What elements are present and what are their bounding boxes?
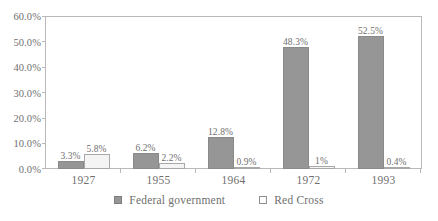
bar-federal-1993[interactable]: 52.5% (358, 36, 384, 169)
x-axis-label-1972: 1972 (271, 174, 346, 192)
y-tick-label-40: 40.0% (13, 61, 41, 72)
bar-group-1993: 52.5% 0.4% (346, 17, 421, 169)
x-axis-label-1955: 1955 (121, 174, 196, 192)
x-axis-label-1927: 1927 (46, 174, 121, 192)
x-axis-labels: 1927 1955 1964 1972 1993 (46, 174, 421, 192)
bar-label-federal-1927: 3.3% (60, 151, 80, 161)
bar-label-redcross-1964: 0.9% (236, 157, 256, 167)
bar-wrap-redcross-1955: 2.2% (159, 17, 185, 169)
bar-wrap-federal-1964: 12.8% (208, 17, 234, 169)
legend-entry-red-cross[interactable]: Red Cross (259, 194, 323, 206)
bar-wrap-redcross-1927: 5.8% (84, 17, 110, 169)
chart-legend: Federal government Red Cross (0, 194, 438, 206)
bar-wrap-redcross-1972: 1% (309, 17, 335, 169)
bar-group-1955: 6.2% 2.2% (121, 17, 196, 169)
bar-label-federal-1993: 52.5% (358, 26, 383, 36)
plot-area: 3.3% 5.8% 6.2% 2.2% (46, 17, 421, 169)
legend-entry-federal-government[interactable]: Federal government (114, 194, 225, 206)
bar-federal-1927[interactable]: 3.3% (58, 161, 84, 169)
bar-federal-1955[interactable]: 6.2% (133, 153, 159, 169)
bar-label-federal-1972: 48.3% (283, 37, 308, 47)
legend-swatch-icon-red-cross (259, 196, 267, 204)
bar-label-redcross-1927: 5.8% (86, 144, 106, 154)
bar-wrap-federal-1955: 6.2% (133, 17, 159, 169)
bar-wrap-federal-1927: 3.3% (58, 17, 84, 169)
bar-group-1964: 12.8% 0.9% (196, 17, 271, 169)
bar-wrap-redcross-1964: 0.9% (234, 17, 260, 169)
y-tick-label-10: 10.0% (13, 138, 41, 149)
x-axis-label-1993: 1993 (346, 174, 421, 192)
x-axis-label-1964: 1964 (196, 174, 271, 192)
bar-wrap-federal-1972: 48.3% (283, 17, 309, 169)
bar-label-federal-1955: 6.2% (135, 143, 155, 153)
x-tick-mark-5 (420, 169, 421, 173)
y-tick-label-30: 30.0% (13, 87, 41, 98)
bar-label-redcross-1993: 0.4% (386, 157, 406, 167)
legend-swatch-icon-federal-government (114, 196, 122, 204)
bar-label-redcross-1972: 1% (315, 156, 328, 166)
legend-label-federal-government: Federal government (129, 194, 225, 206)
y-tick-label-60: 60.0% (13, 11, 41, 22)
bar-wrap-federal-1993: 52.5% (358, 17, 384, 169)
y-tick-label-0: 0.0% (19, 164, 41, 175)
y-tick-label-50: 50.0% (13, 36, 41, 47)
bar-label-redcross-1955: 2.2% (161, 153, 181, 163)
bar-federal-1964[interactable]: 12.8% (208, 137, 234, 169)
bar-federal-1972[interactable]: 48.3% (283, 47, 309, 169)
bar-group-1927: 3.3% 5.8% (46, 17, 121, 169)
bar-redcross-1927[interactable]: 5.8% (84, 154, 110, 169)
y-tick-label-20: 20.0% (13, 113, 41, 124)
bar-wrap-redcross-1993: 0.4% (384, 17, 410, 169)
bar-label-federal-1964: 12.8% (208, 127, 233, 137)
y-axis-labels: 60.0% 50.0% 40.0% 30.0% 20.0% 10.0% 0.0% (0, 16, 41, 169)
legend-label-red-cross: Red Cross (274, 194, 323, 206)
bar-group-1972: 48.3% 1% (271, 17, 346, 169)
bar-chart-figure: 60.0% 50.0% 40.0% 30.0% 20.0% 10.0% 0.0%… (0, 0, 438, 221)
